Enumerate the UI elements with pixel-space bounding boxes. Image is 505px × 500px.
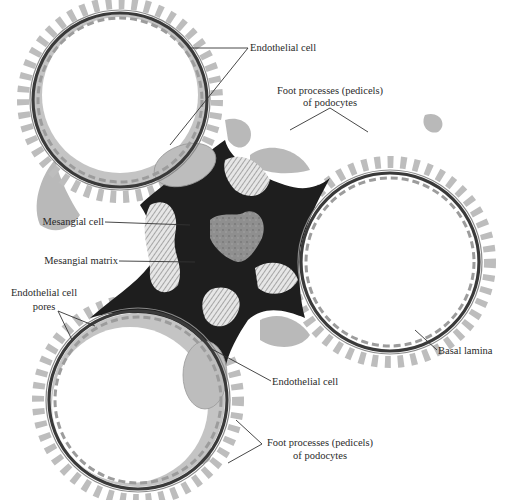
label-endothelial-pores: Endothelial cell: [11, 287, 77, 298]
label-foot-processes-bottom: Foot processes (pedicels): [267, 437, 374, 449]
label-basal-lamina: Basal lamina: [438, 345, 493, 356]
capillary-top-left: [30, 10, 222, 195]
glomerulus-diagram: Endothelial cell Foot processes (pedicel…: [0, 0, 505, 500]
capillary-right: [298, 170, 482, 354]
label-foot-processes-top-2: of podocytes: [303, 97, 357, 108]
label-mesangial-matrix: Mesangial matrix: [44, 255, 119, 266]
label-mesangial-cell: Mesangial cell: [42, 216, 104, 227]
label-endothelial-cell-bottom: Endothelial cell: [272, 376, 338, 387]
label-endothelial-cell-top: Endothelial cell: [250, 42, 316, 53]
label-foot-processes-bottom-2: of podocytes: [293, 450, 347, 461]
label-foot-processes-top: Foot processes (pedicels): [277, 85, 384, 97]
label-endothelial-pores-2: pores: [33, 301, 56, 312]
